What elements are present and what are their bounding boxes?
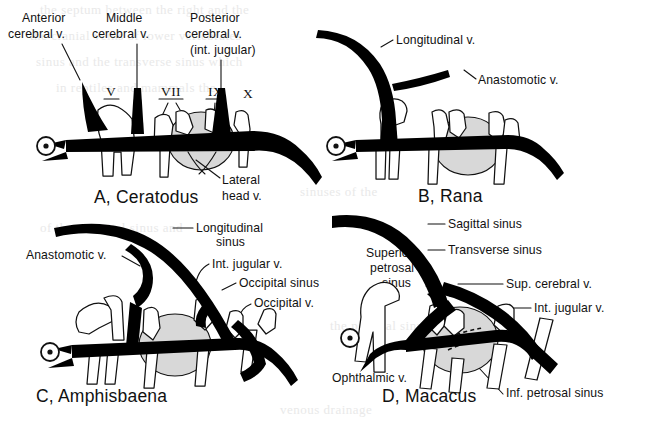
panel-c-label-anastomotic-v: Anastomotic v. bbox=[26, 248, 106, 262]
svg-text:venous drainage: venous drainage bbox=[280, 402, 372, 417]
panel-a-label-posterior-cerebral-line1: Posterior bbox=[190, 11, 240, 25]
panel-a-title: A, Ceratodus bbox=[94, 187, 199, 207]
panel-d-label-transverse-sinus: Transverse sinus bbox=[448, 243, 542, 257]
panel-a-label-anterior-cerebral-line1: Anterior bbox=[22, 11, 65, 25]
panel-c-label-longitudinal-sinus-line2: sinus bbox=[216, 235, 245, 249]
panel-c-label-longitudinal-sinus-line1: Longitudinal bbox=[196, 221, 263, 235]
panel-b-title: B, Rana bbox=[418, 186, 483, 206]
panel-b-bone-post-leg bbox=[494, 148, 507, 184]
panel-a-nerve-numeral-vii: VII bbox=[161, 84, 181, 99]
panel-c-eye-pupil bbox=[47, 349, 52, 354]
comparative-venous-sinus-diagram: the septum between the right and the the… bbox=[0, 0, 651, 425]
panel-a-nerve-numeral-v: V bbox=[106, 84, 116, 99]
panel-d-eye-pupil bbox=[347, 335, 352, 340]
panel-c-title: C, Amphisbaena bbox=[36, 386, 167, 406]
panel-a-label-anterior-cerebral-line2: cerebral v. bbox=[8, 27, 65, 41]
panel-c-label-occipital-sinus: Occipital sinus bbox=[239, 276, 319, 290]
panel-d-title: D, Macacus bbox=[382, 386, 476, 406]
panel-d-label-inf-petrosal-sinus: Inf. petrosal sinus bbox=[506, 386, 603, 400]
panel-d-label-superior-petrosal-line2: petrosal bbox=[370, 261, 414, 275]
panel-a-label-lateral-head-line1: Lateral bbox=[222, 173, 260, 187]
panel-b-eye-pupil bbox=[333, 143, 338, 148]
panel-d-label-int-jugular-v: Int. jugular v. bbox=[534, 301, 604, 315]
panel-d-label-sup-cerebral-v: Sup. cerebral v. bbox=[506, 277, 592, 291]
figure-container: the septum between the right and the the… bbox=[0, 0, 651, 425]
panel-a-label-lateral-head-line2: head v. bbox=[222, 189, 262, 203]
panel-b-bone-mid-leg bbox=[428, 148, 439, 184]
panel-a-label-posterior-cerebral-line2: cerebral v. bbox=[185, 27, 242, 41]
panel-b-label-longitudinal-v: Longitudinal v. bbox=[396, 33, 475, 47]
svg-text:sinuses of the: sinuses of the bbox=[300, 184, 378, 199]
panel-c-label-int-jugular-v: Int. jugular v. bbox=[212, 257, 282, 271]
panel-d-label-sagittal-sinus: Sagittal sinus bbox=[448, 217, 522, 231]
panel-a-eye-pupil bbox=[43, 143, 48, 148]
panel-a-label-middle-cerebral-line2: cerebral v. bbox=[92, 27, 149, 41]
panel-a-label-posterior-cerebral-line3: (int. jugular) bbox=[190, 43, 256, 57]
panel-a-nerve-numeral-x: X bbox=[243, 86, 253, 101]
panel-d-label-ophthalmic-v: Ophthalmic v. bbox=[332, 371, 407, 385]
panel-b-label-anastomotic-v: Anastomotic v. bbox=[478, 73, 558, 87]
panel-c-label-occipital-v: Occipital v. bbox=[254, 296, 314, 310]
panel-a-label-middle-cerebral-line1: Middle bbox=[106, 11, 143, 25]
